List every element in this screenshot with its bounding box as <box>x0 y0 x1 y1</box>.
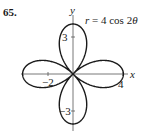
polar-plot: x y −2 4 3 −3 r = 4 cos 2θ <box>0 0 142 134</box>
y-tick-label-3: 3 <box>62 31 68 43</box>
x-axis-label: x <box>129 68 135 80</box>
x-tick-label-4: 4 <box>118 78 124 90</box>
equation-label: r = 4 cos 2θ <box>85 14 138 26</box>
x-tick-label-neg2: −2 <box>42 76 54 88</box>
y-axis-label: y <box>69 4 75 16</box>
y-tick-label-neg3: −3 <box>59 105 71 117</box>
